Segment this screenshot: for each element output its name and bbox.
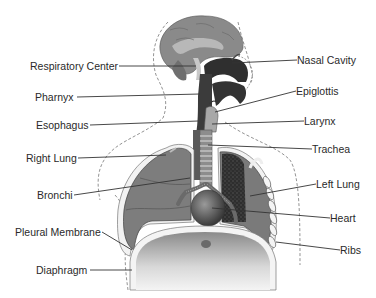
label-nasal-cavity: Nasal Cavity — [297, 54, 356, 66]
airway — [196, 55, 253, 134]
respiratory-diagram: Respiratory Center Pharnyx Esophagus Rig… — [0, 0, 376, 298]
label-bronchi: Bronchi — [37, 189, 73, 201]
label-ribs: Ribs — [340, 244, 361, 256]
trachea — [193, 130, 212, 186]
label-respiratory-center: Respiratory Center — [30, 60, 118, 72]
label-trachea: Trachea — [312, 143, 350, 155]
label-pleural-membrane: Pleural Membrane — [15, 226, 101, 238]
label-right-lung: Right Lung — [26, 152, 77, 164]
label-larynx: Larynx — [304, 115, 336, 127]
label-diaphragm: Diaphragm — [36, 264, 87, 276]
label-esophagus: Esophagus — [36, 119, 89, 131]
heart — [191, 190, 225, 226]
diaphragm — [130, 226, 276, 290]
label-left-lung: Left Lung — [316, 178, 360, 190]
label-epiglottis: Epiglottis — [296, 85, 339, 97]
label-pharynx: Pharnyx — [35, 91, 74, 103]
label-heart: Heart — [330, 212, 356, 224]
